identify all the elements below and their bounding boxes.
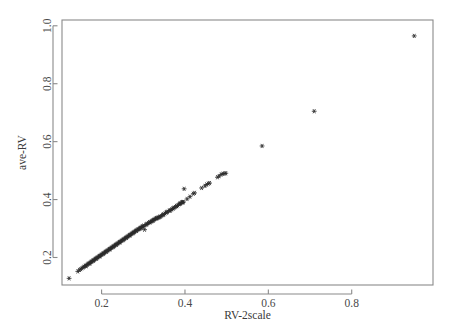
plot-canvas: 0.20.40.60.80.20.40.60.81.0RV-2scaleave-…: [0, 0, 450, 331]
x-tick-label: 0.6: [261, 297, 276, 309]
y-tick-label: 0.6: [41, 134, 53, 149]
x-axis-title: RV-2scale: [224, 309, 271, 321]
data-point: [67, 276, 72, 280]
y-tick-label: 0.8: [41, 76, 53, 91]
data-point: [260, 144, 265, 148]
axis-layer: [53, 20, 433, 294]
y-axis-title: ave-RV: [16, 134, 28, 170]
x-tick-label: 0.2: [94, 297, 109, 309]
y-tick-label: 1.0: [41, 18, 53, 33]
y-tick-label: 0.2: [41, 250, 53, 265]
x-tick-label: 0.8: [345, 297, 360, 309]
data-point: [182, 187, 187, 191]
data-point: [312, 109, 317, 113]
x-tick-label: 0.4: [178, 297, 193, 309]
data-points-layer: [67, 34, 417, 281]
axis-label-layer: 0.20.40.60.80.20.40.60.81.0RV-2scaleave-…: [16, 18, 359, 321]
data-point: [199, 186, 204, 190]
data-point: [412, 34, 417, 38]
data-point: [185, 197, 190, 201]
data-point: [188, 195, 193, 199]
y-tick-label: 0.4: [41, 192, 53, 207]
scatter-plot-figure: 0.20.40.60.80.20.40.60.81.0RV-2scaleave-…: [0, 0, 450, 331]
